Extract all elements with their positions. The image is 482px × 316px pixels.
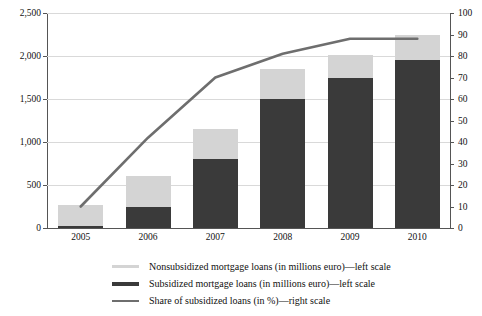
right-axis-tick-label: 80 [458, 51, 468, 61]
legend-item-label: Share of subsidized loans (in %)—right s… [149, 295, 330, 306]
right-axis-tick-label: 90 [458, 30, 468, 40]
right-axis-tick-label: 60 [458, 94, 468, 104]
x-axis-label: 2010 [408, 232, 427, 242]
nonsubsidized-swatch-icon [112, 265, 139, 268]
right-axis-tick-label: 20 [458, 180, 468, 190]
left-axis-tick-label: 1,000 [20, 137, 41, 147]
left-axis-tick-label: 2,500 [20, 8, 41, 18]
legend-item: Nonsubsidized mortgage loans (in million… [112, 258, 472, 275]
right-axis-tick-label: 0 [458, 223, 463, 233]
legend-item: Share of subsidized loans (in %)—right s… [112, 292, 472, 309]
x-axis-label: 2005 [71, 232, 90, 242]
legend-item: Subsidized mortgage loans (in millions e… [112, 275, 472, 292]
plot-area: 05001,0001,5002,0002,500 010203040506070… [47, 13, 451, 229]
legend-marker-swatch [112, 282, 139, 286]
right-axis-tick-label: 10 [458, 202, 468, 212]
x-axis-label: 2009 [341, 232, 360, 242]
legend-marker-swatch [112, 300, 139, 302]
left-axis-tick-label: 500 [27, 180, 41, 190]
legend-item-label: Subsidized mortgage loans (in millions e… [149, 278, 375, 289]
right-axis-tick-label: 40 [458, 137, 468, 147]
share-line-swatch-icon [112, 300, 139, 302]
right-axis-tick-label: 100 [458, 8, 472, 18]
subsidized-swatch-icon [112, 282, 139, 286]
x-axis-label: 2006 [139, 232, 158, 242]
legend-marker-swatch [112, 265, 139, 268]
right-axis-tick-label: 30 [458, 159, 468, 169]
chart-legend: Nonsubsidized mortgage loans (in million… [112, 258, 472, 309]
share-line-series [47, 13, 451, 229]
chart-figure: 05001,0001,5002,0002,500 010203040506070… [0, 0, 482, 316]
left-axis-tick-label: 0 [36, 223, 41, 233]
x-axis-label: 2007 [206, 232, 225, 242]
left-axis-tick-label: 1,500 [20, 94, 41, 104]
share-line-path [81, 39, 418, 207]
x-axis-label: 2008 [273, 232, 292, 242]
right-axis-tick-label: 70 [458, 73, 468, 83]
right-axis-tick-label: 50 [458, 116, 468, 126]
left-axis-tick-label: 2,000 [20, 51, 41, 61]
legend-item-label: Nonsubsidized mortgage loans (in million… [149, 261, 391, 272]
